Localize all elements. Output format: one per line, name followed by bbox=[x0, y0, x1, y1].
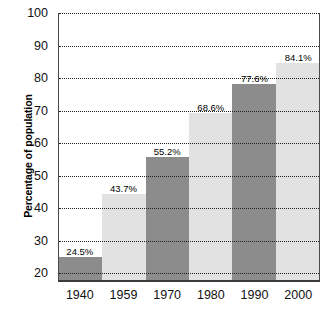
x-axis-tick-labels: 194019591970198019902000 bbox=[58, 288, 320, 302]
gridline-40 bbox=[59, 208, 319, 209]
x-tick-1940: 1940 bbox=[58, 288, 102, 302]
y-tick-70: 70 bbox=[0, 104, 48, 118]
value-label-1959: 43.7% bbox=[110, 183, 137, 194]
gridline-90 bbox=[59, 46, 319, 47]
value-label-1980: 68.6% bbox=[197, 102, 224, 113]
plot-area bbox=[58, 13, 320, 282]
bar-1940 bbox=[59, 257, 102, 280]
y-tick-40: 40 bbox=[0, 201, 48, 215]
y-tick-80: 80 bbox=[0, 71, 48, 85]
gridline-50 bbox=[59, 176, 319, 177]
bar-1980 bbox=[189, 113, 232, 280]
x-tick-2000: 2000 bbox=[276, 288, 320, 302]
x-tick-1990: 1990 bbox=[233, 288, 277, 302]
y-tick-100: 100 bbox=[0, 6, 48, 20]
gridline-30 bbox=[59, 241, 319, 242]
x-tick-1980: 1980 bbox=[189, 288, 233, 302]
y-tick-50: 50 bbox=[0, 169, 48, 183]
bar-chart-figure: Percentage of population 100908070605040… bbox=[0, 0, 333, 314]
value-label-1990: 77.6% bbox=[241, 73, 268, 84]
bar-2000 bbox=[276, 63, 319, 280]
gridline-100 bbox=[59, 13, 319, 14]
value-label-2000: 84.1% bbox=[285, 52, 312, 63]
gridline-80 bbox=[59, 78, 319, 79]
y-axis-title: Percentage of population bbox=[22, 71, 34, 241]
value-label-1970: 55.2% bbox=[154, 146, 181, 157]
bar-1959 bbox=[102, 194, 145, 280]
y-tick-60: 60 bbox=[0, 136, 48, 150]
x-tick-1959: 1959 bbox=[102, 288, 146, 302]
gridline-60 bbox=[59, 143, 319, 144]
value-label-1940: 24.5% bbox=[66, 246, 93, 257]
gridline-70 bbox=[59, 111, 319, 112]
y-tick-90: 90 bbox=[0, 39, 48, 53]
x-tick-1970: 1970 bbox=[145, 288, 189, 302]
y-tick-30: 30 bbox=[0, 234, 48, 248]
gridline-20 bbox=[59, 273, 319, 274]
bar-1990 bbox=[232, 84, 275, 280]
y-tick-20: 20 bbox=[0, 266, 48, 280]
